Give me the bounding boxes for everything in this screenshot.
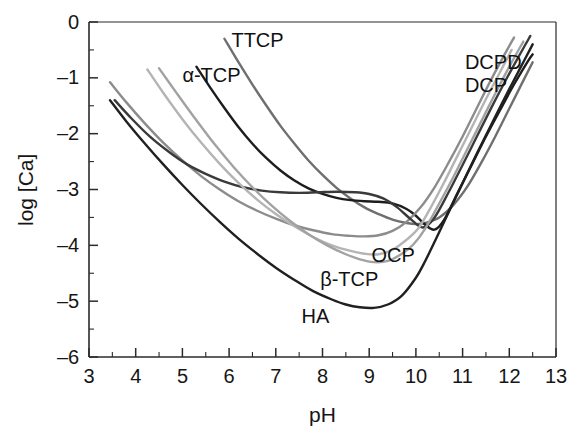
y-tick-label--3: –3 — [57, 178, 79, 201]
y-tick-label--2: –2 — [57, 122, 79, 145]
y-tick-label-0: 0 — [68, 11, 79, 34]
x-tick-label-4: 4 — [130, 365, 141, 388]
x-tick-label-8: 8 — [317, 365, 328, 388]
x-tick-label-11: 11 — [452, 365, 473, 388]
x-tick-label-10: 10 — [405, 365, 427, 388]
x-tick-label-12: 12 — [498, 365, 520, 388]
x-tick-label-7: 7 — [270, 365, 281, 388]
x-tick-label-6: 6 — [224, 365, 235, 388]
curve-label-OCP: OCP — [372, 244, 415, 267]
y-axis-title: log [Ca] — [14, 153, 38, 225]
x-axis-title: pH — [309, 403, 336, 427]
x-tick-label-5: 5 — [177, 365, 188, 388]
curve-label-TTCP: TTCP — [231, 29, 283, 52]
y-tick-label--6: –6 — [57, 346, 79, 369]
solubility-phase-diagram: 3456789101112130–1–2–3–4–5–6pHlog [Ca]TT… — [0, 0, 577, 439]
curve-label-alpha-TCP: α-TCP — [182, 64, 240, 87]
x-tick-label-9: 9 — [364, 365, 375, 388]
y-tick-label--4: –4 — [57, 234, 79, 257]
curve-label-HA: HA — [301, 305, 329, 328]
curve-label-beta-TCP: β-TCP — [320, 268, 378, 291]
x-tick-label-13: 13 — [545, 365, 567, 388]
y-tick-label--5: –5 — [57, 290, 79, 313]
y-tick-label--1: –1 — [57, 66, 79, 89]
x-tick-label-3: 3 — [84, 365, 95, 388]
curve-label-DCPD: DCPD — [465, 51, 522, 74]
curve-label-DCP: DCP — [465, 74, 507, 97]
